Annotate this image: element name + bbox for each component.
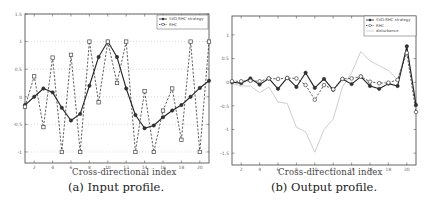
data-point (304, 71, 307, 74)
plot-frame (232, 16, 416, 165)
x-tick-label: 2 (33, 165, 36, 170)
data-point (180, 103, 183, 106)
data-point (106, 40, 109, 43)
y-tick-label: -1 (18, 150, 23, 155)
y-tick-label: 0 (19, 95, 22, 100)
data-point (295, 77, 299, 81)
data-point (239, 79, 243, 83)
data-point (405, 51, 409, 55)
data-point (304, 83, 308, 87)
figure-caption-b: (b) Output profile. (271, 180, 377, 194)
data-point (33, 75, 36, 78)
data-point (414, 110, 418, 114)
data-point (152, 150, 155, 153)
data-point (189, 40, 192, 43)
y-tick-label: -0.5 (220, 104, 229, 109)
data-point (51, 56, 54, 59)
x-tick-label: 18 (179, 165, 185, 170)
y-tick-label: 1.5 (15, 12, 22, 17)
data-point (359, 75, 363, 79)
data-point (368, 80, 372, 84)
data-point (60, 150, 63, 153)
data-point (180, 138, 183, 141)
x-tick-label: 20 (197, 165, 203, 170)
y-tick-label: 0.5 (15, 67, 22, 72)
data-point (285, 76, 289, 80)
data-point (152, 124, 155, 127)
y-tick-label: 0 (226, 80, 229, 85)
data-point (198, 86, 201, 89)
legend-marker (369, 19, 371, 21)
data-point (60, 106, 63, 109)
data-point (79, 112, 82, 115)
data-point (143, 90, 146, 93)
data-point (171, 109, 174, 112)
data-point (143, 127, 146, 130)
data-point (125, 40, 128, 43)
legend-label: disturbance (376, 28, 399, 33)
legend-marker (162, 23, 164, 25)
data-point (258, 79, 262, 83)
data-point (88, 40, 91, 43)
data-point (69, 119, 72, 122)
data-point (331, 88, 335, 92)
data-point (249, 79, 253, 83)
data-point (207, 79, 210, 82)
data-point (322, 83, 326, 87)
data-point (23, 105, 26, 108)
data-point (88, 84, 91, 87)
data-point (350, 77, 354, 81)
x-axis-label: Cross-directional index (72, 167, 177, 177)
input-profile-panel: 1.510.50-0.5-12468101214161820SVD-RHC st… (0, 0, 216, 204)
data-point (295, 85, 298, 88)
y-tick-label: 1 (19, 39, 22, 44)
data-point (42, 125, 45, 128)
data-point (387, 81, 391, 85)
output-profile-panel: 10.50-0.5-1-1.52468101214161820SVD-RHC s… (216, 0, 433, 204)
x-tick-label: 2 (240, 167, 243, 172)
figure-caption-a: (a) Input profile. (68, 180, 164, 194)
data-point (322, 77, 325, 80)
x-tick-label: 4 (51, 165, 54, 170)
legend-label: SVD-RHC strategy (169, 16, 204, 21)
data-point (377, 81, 381, 85)
series-line-disturbance (232, 48, 416, 153)
data-point (207, 40, 210, 43)
y-tick-label: -0.5 (13, 122, 22, 127)
data-point (313, 98, 317, 102)
y-tick-label: -1.5 (220, 151, 229, 156)
data-point (42, 87, 45, 90)
y-tick-label: -1 (225, 127, 230, 132)
data-point (313, 86, 316, 89)
data-point (350, 82, 353, 85)
data-point (405, 45, 408, 48)
data-point (171, 87, 174, 90)
data-point (51, 91, 54, 94)
x-axis-label: Cross-directional index (278, 167, 383, 177)
legend-label: RHC (376, 23, 384, 28)
data-point (198, 150, 201, 153)
data-point (341, 77, 345, 81)
x-tick-label: 20 (404, 167, 410, 172)
data-point (276, 77, 280, 81)
data-point (267, 77, 271, 81)
data-point (97, 55, 100, 58)
series-line-svd-rhc-strategy (232, 46, 416, 105)
data-point (33, 95, 36, 98)
data-point (396, 84, 399, 87)
legend-marker (162, 18, 164, 20)
y-tick-label: 0.5 (222, 56, 229, 61)
data-point (368, 84, 371, 87)
data-point (396, 78, 400, 82)
x-tick-label: 18 (386, 167, 392, 172)
x-tick-label: 4 (258, 167, 261, 172)
data-point (276, 87, 279, 90)
data-point (134, 113, 137, 116)
data-point (115, 55, 118, 58)
data-point (189, 95, 192, 98)
data-point (125, 87, 128, 90)
data-point (115, 81, 118, 84)
data-point (378, 87, 381, 90)
data-point (97, 101, 100, 104)
data-point (69, 53, 72, 56)
